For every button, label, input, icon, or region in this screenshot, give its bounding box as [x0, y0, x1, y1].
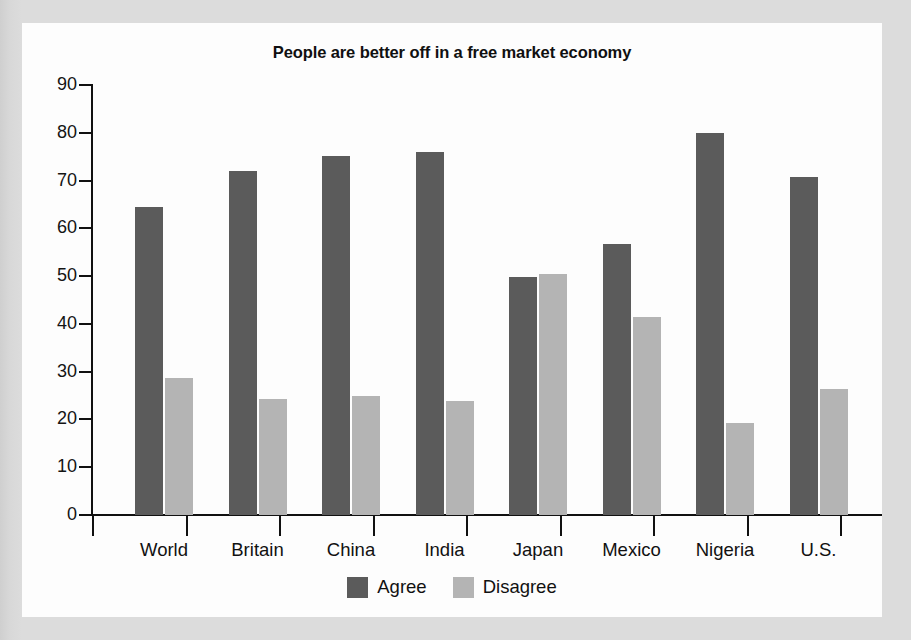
bar-india-disagree [446, 401, 474, 515]
legend-item-agree[interactable]: Agree [347, 576, 426, 598]
x-axis-label-world: World [140, 539, 188, 561]
bar-britain-agree [229, 171, 257, 515]
x-axis-label-britain: Britain [231, 539, 283, 561]
chart-legend: AgreeDisagree [22, 576, 882, 598]
x-axis-separator-tick [279, 514, 281, 536]
bar-japan-disagree [539, 274, 567, 515]
x-axis-label-nigeria: Nigeria [696, 539, 755, 561]
x-axis-separator-tick [186, 514, 188, 536]
bars-layer [22, 23, 882, 515]
bar-japan-agree [509, 277, 537, 515]
x-axis-separator-tick [560, 514, 562, 536]
bar-us-agree [790, 177, 818, 515]
legend-label-agree: Agree [377, 576, 426, 598]
bar-china-disagree [352, 396, 380, 515]
x-axis-separator-tick [466, 514, 468, 536]
x-axis-separator-tick [92, 514, 94, 536]
bar-nigeria-agree [696, 133, 724, 515]
bar-mexico-agree [603, 244, 631, 515]
bar-mexico-disagree [633, 317, 661, 515]
x-axis-separator-tick [653, 514, 655, 536]
legend-item-disagree[interactable]: Disagree [453, 576, 557, 598]
x-axis-separator-tick [840, 514, 842, 536]
bar-us-disagree [820, 389, 848, 515]
bar-nigeria-disagree [726, 423, 754, 515]
bar-britain-disagree [259, 399, 287, 515]
x-axis-label-mexico: Mexico [602, 539, 661, 561]
legend-swatch-agree [347, 577, 368, 598]
legend-swatch-disagree [453, 577, 474, 598]
x-axis-label-us: U.S. [801, 539, 837, 561]
bar-world-disagree [165, 378, 193, 515]
x-axis-label-india: India [424, 539, 464, 561]
bar-world-agree [135, 207, 163, 515]
bar-india-agree [416, 152, 444, 515]
x-axis-label-japan: Japan [513, 539, 563, 561]
x-axis-label-china: China [327, 539, 375, 561]
chart-panel: People are better off in a free market e… [22, 23, 882, 617]
legend-label-disagree: Disagree [483, 576, 557, 598]
bar-china-agree [322, 156, 350, 515]
x-axis-separator-tick [373, 514, 375, 536]
x-axis-separator-tick [747, 514, 749, 536]
plot-area: 0102030405060708090 WorldBritainChinaInd… [22, 23, 882, 617]
